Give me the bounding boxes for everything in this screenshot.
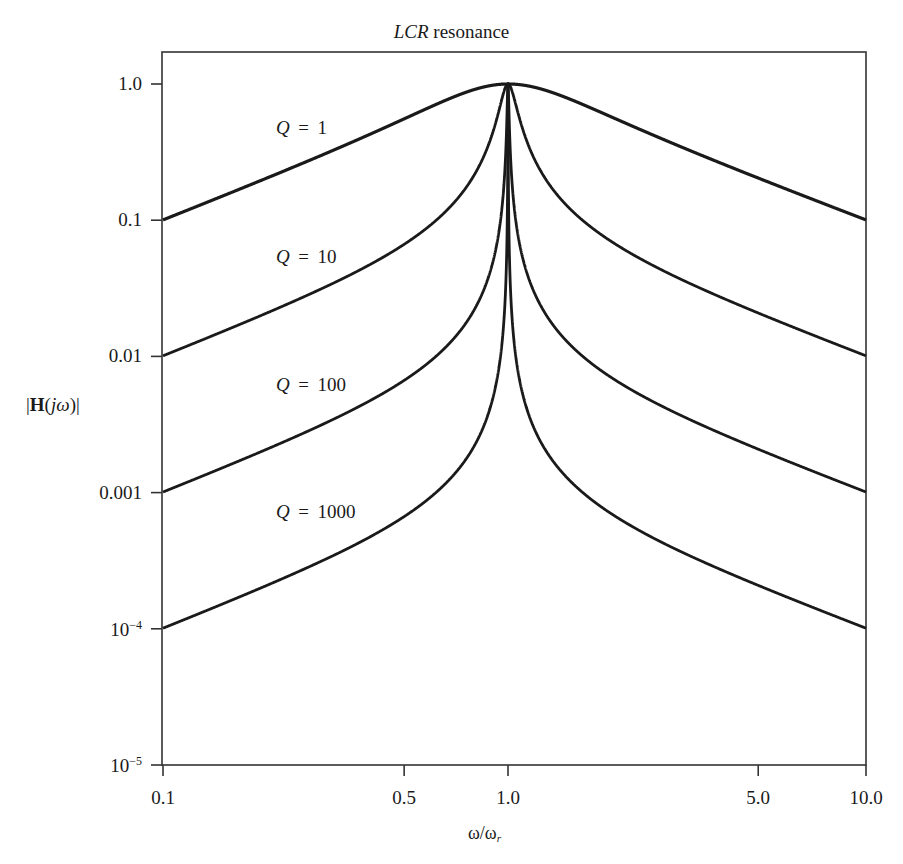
curve-label: Q = 10 <box>276 247 337 266</box>
y-tick-label: 0.1 <box>62 210 142 229</box>
curve-label: Q = 1 <box>276 118 327 137</box>
resonance-curves <box>163 84 866 628</box>
x-tick-label: 1.0 <box>468 788 548 807</box>
y-tick-label: 0.01 <box>62 346 142 365</box>
y-tick-label: 10−4 <box>62 619 142 639</box>
y-tick-label: 0.001 <box>62 483 142 502</box>
x-tick-label: 5.0 <box>718 788 798 807</box>
y-axis-label: |H(jω)| <box>26 395 80 414</box>
x-tick-label: 0.1 <box>123 788 203 807</box>
y-tick-label: 1.0 <box>62 74 142 93</box>
y-tick-label: 10−5 <box>62 755 142 775</box>
chart-canvas <box>0 0 903 864</box>
chart-title: LCR resonance <box>0 22 903 41</box>
x-axis-label: ω/ωr <box>468 824 501 844</box>
curve-label: Q = 1000 <box>276 502 356 521</box>
x-tick-label: 0.5 <box>364 788 444 807</box>
plot-frame <box>162 52 866 765</box>
curve-q-100 <box>163 84 866 492</box>
x-tick-label: 10.0 <box>826 788 903 807</box>
curve-q-1000 <box>163 84 866 628</box>
curve-label: Q = 100 <box>276 375 346 394</box>
plot-border <box>162 52 866 765</box>
